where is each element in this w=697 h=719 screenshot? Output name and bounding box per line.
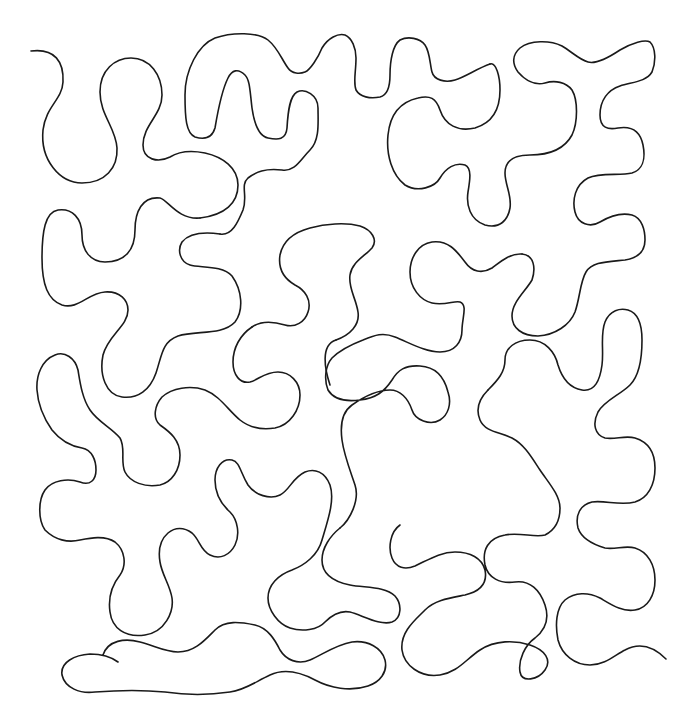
meander-pattern-svg xyxy=(0,0,697,719)
meander-pattern-canvas xyxy=(0,0,697,719)
